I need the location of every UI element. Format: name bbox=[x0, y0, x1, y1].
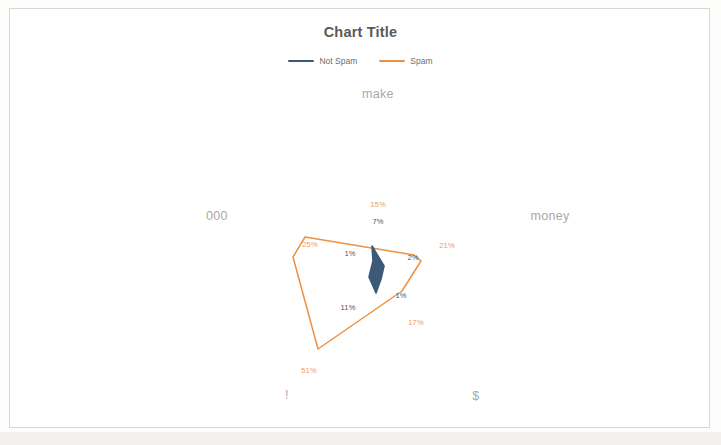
category-label-4: 000 bbox=[206, 209, 228, 223]
radar-series-svg bbox=[10, 9, 711, 427]
category-label-0: make bbox=[362, 87, 394, 101]
data-label-notspam-1: 7% bbox=[372, 217, 383, 226]
category-label-1: money bbox=[530, 209, 569, 223]
data-label-spam-6: 51% bbox=[301, 366, 317, 375]
data-label-spam-2: 21% bbox=[439, 241, 455, 250]
radar-plot-area: makemoney$!000 15%7%21%2%17%1%51%11%25%1… bbox=[10, 9, 711, 427]
series-polygon-not-spam[interactable] bbox=[369, 246, 384, 293]
data-label-notspam-3: 2% bbox=[407, 253, 418, 262]
category-label-3: ! bbox=[285, 388, 289, 402]
chart-object-frame: Chart Title Not Spam Spam makemoney$!000… bbox=[9, 8, 710, 428]
scanned-page: Chart Title Not Spam Spam makemoney$!000… bbox=[0, 0, 721, 445]
category-label-2: $ bbox=[472, 389, 479, 403]
data-label-notspam-7: 11% bbox=[340, 303, 355, 312]
data-label-spam-4: 17% bbox=[408, 318, 424, 327]
data-label-spam-0: 15% bbox=[370, 200, 386, 209]
data-label-notspam-5: 1% bbox=[395, 291, 406, 300]
data-label-spam-8: 25% bbox=[302, 240, 318, 249]
data-label-notspam-9: 1% bbox=[344, 249, 355, 258]
page-bottom-shading bbox=[0, 432, 721, 445]
